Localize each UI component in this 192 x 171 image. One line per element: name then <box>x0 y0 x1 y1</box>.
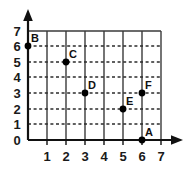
point-label-e: E <box>126 96 133 107</box>
x-tick-label-5: 5 <box>116 150 130 163</box>
x-tick-label-1: 1 <box>40 150 54 163</box>
y-tick-label-1: 1 <box>10 118 24 131</box>
point-label-f: F <box>145 80 152 91</box>
y-tick-label-3: 3 <box>10 87 24 100</box>
x-tick-label-7: 7 <box>154 150 168 163</box>
x-tick-label-3: 3 <box>78 150 92 163</box>
x-axis-arrow-icon <box>171 135 183 145</box>
plot-area <box>0 0 192 171</box>
coordinate-plane-figure: 7 6 5 4 3 2 1 0 1 2 3 4 5 6 7 B C D F E … <box>0 0 192 171</box>
y-tick-label-4: 4 <box>10 71 24 84</box>
y-tick-label-6: 6 <box>10 40 24 53</box>
x-tick-label-4: 4 <box>97 150 111 163</box>
x-tick-label-2: 2 <box>59 150 73 163</box>
x-axis <box>28 135 183 145</box>
point-label-d: D <box>88 80 96 91</box>
y-axis-arrow-icon <box>23 9 33 21</box>
y-tick-label-0: 0 <box>10 134 24 147</box>
horizontal-gridlines <box>28 31 161 124</box>
y-tick-label-5: 5 <box>10 56 24 69</box>
y-tick-label-2: 2 <box>10 103 24 116</box>
point-label-b: B <box>31 33 39 44</box>
point-label-a: A <box>145 127 153 138</box>
point-label-c: C <box>69 49 77 60</box>
y-axis <box>23 9 33 140</box>
y-tick-label-7: 7 <box>10 25 24 38</box>
x-tick-label-6: 6 <box>135 150 149 163</box>
